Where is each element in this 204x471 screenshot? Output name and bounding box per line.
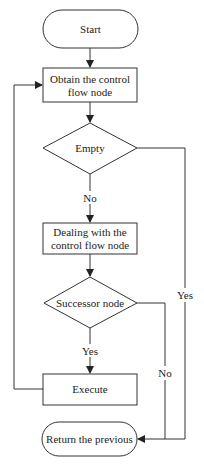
obtain-label-line1: Obtain the control: [50, 73, 130, 85]
empty-decision: Empty: [43, 123, 137, 174]
execute-node: Execute: [43, 374, 137, 405]
dealing-node: Dealing with the control flow node: [43, 223, 137, 254]
edge-execute-obtain-loop: [14, 85, 43, 389]
obtain-node: Obtain the control flow node: [43, 68, 137, 102]
successor-no-label: No: [158, 367, 172, 379]
successor-label: Successor node: [56, 297, 124, 309]
empty-label: Empty: [75, 142, 105, 154]
dealing-label-line1: Dealing with the: [53, 226, 126, 238]
empty-yes-label: Yes: [177, 289, 193, 301]
return-label: Return the previous: [46, 433, 133, 445]
start-label: Start: [80, 23, 101, 35]
dealing-label-line2: control flow node: [51, 239, 129, 251]
start-node: Start: [43, 10, 138, 48]
successor-decision: Successor node: [44, 277, 137, 328]
flowchart: Start Obtain the control flow node Empty…: [0, 0, 204, 471]
execute-label: Execute: [72, 383, 108, 395]
return-node: Return the previous: [42, 422, 137, 456]
obtain-label-line2: flow node: [68, 86, 112, 98]
empty-no-label: No: [83, 192, 97, 204]
successor-yes-label: Yes: [82, 345, 98, 357]
